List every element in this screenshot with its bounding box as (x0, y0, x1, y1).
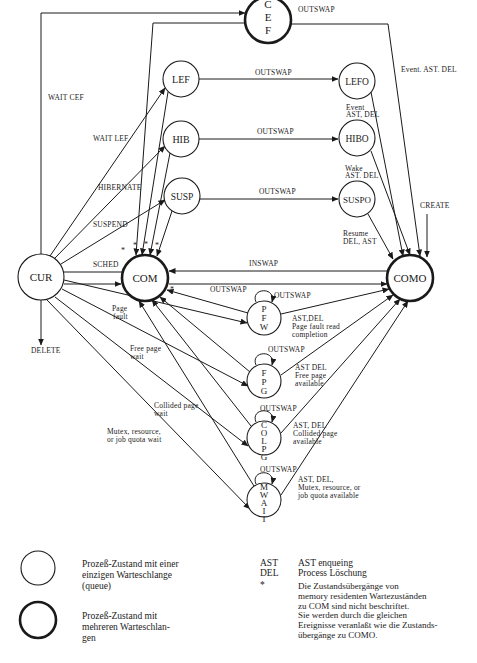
self-loop-pfw (255, 291, 272, 302)
mwait-label-5: T (261, 514, 267, 524)
label-suspo-2: DEL, AST (343, 237, 377, 246)
cef-label-3: F (265, 24, 271, 36)
abbr-del-value: Process Löschung (298, 568, 367, 578)
edge-cur-lef (50, 88, 165, 256)
colpg-label-5: G (261, 452, 268, 462)
label-colpg-3: available (293, 437, 322, 446)
label-mwait-3: job quota available (297, 491, 359, 500)
state-transition-diagram: C E F LEF HIB SUSP CUR COM LEFO HIBO SUS… (0, 0, 477, 663)
edge-cur-hib (55, 146, 165, 258)
star-marker: * (170, 285, 174, 294)
susp-label: SUSP (171, 192, 194, 202)
suspo-label: SUSPO (343, 195, 372, 205)
legend-single-line-3: (queue) (82, 581, 179, 592)
label-page-fault-2: fault (113, 312, 128, 321)
abbr-ast-value: AST enqueing (298, 558, 353, 568)
legend-multi-line-1: Prozeß-Zustand mit (82, 611, 170, 622)
legend-multi-line-2: mehreren Warteschlan- (82, 622, 170, 633)
label-outswap-susp: OUTSWAP (259, 187, 296, 196)
lef-label: LEF (172, 74, 190, 85)
abbr-ast-key: AST (260, 558, 298, 569)
cef-label-1: C (264, 0, 271, 10)
label-wait-lef: WAIT LEF (93, 134, 128, 143)
edge-cur-colpg (55, 297, 248, 446)
legend-single-line-1: Prozeß-Zustand mit einer (82, 559, 179, 570)
lefo-label: LEFO (345, 77, 369, 87)
label-event-ast-del: Event. AST. DEL (401, 65, 457, 74)
label-outswap-hib: OUTSWAP (257, 127, 294, 136)
star-marker: * (155, 241, 159, 250)
label-hibo-2: AST. DEL (345, 171, 379, 180)
legend-multi-queue-icon (20, 602, 56, 638)
abbr-del-key: DEL (260, 568, 298, 579)
label-outswap-cef: OUTSWAP (298, 5, 335, 14)
legend-single-line-2: einzigen Warteschlange (82, 570, 179, 581)
pfw-label-3: W (260, 322, 269, 332)
self-loop-fpg (255, 354, 272, 365)
edge-susp-com (157, 211, 172, 256)
cur-label: CUR (30, 271, 53, 283)
abbr-star-key: * (260, 580, 298, 591)
edge-fpg-com (160, 297, 250, 372)
label-create: CREATE (420, 201, 450, 210)
note-line: übergänge zu COMO. (298, 631, 477, 641)
legend-single-queue-icon (21, 551, 55, 585)
cef-label-2: E (265, 11, 272, 23)
fpg-label-3: G (261, 386, 268, 396)
hibo-label: HIBO (345, 134, 368, 144)
star-marker: * (133, 241, 137, 250)
label-outswap-mwait: OUTSWAP (260, 465, 297, 474)
label-lefo-2: AST, DEL (346, 110, 380, 119)
label-sched: SCHED (93, 260, 119, 269)
com-label: COM (132, 272, 157, 284)
como-label: COMO (393, 272, 426, 284)
label-outswap-fpg: OUTSWAP (268, 345, 305, 354)
label-outswap-pfw: OUTSWAP (274, 291, 311, 300)
label-free-page-2: wait (130, 352, 144, 361)
legend-multi-queue: Prozeß-Zustand mit mehreren Warteschlan-… (82, 611, 170, 644)
label-outswap-colpg: OUTSWAP (260, 404, 297, 413)
abbr-star-note: Die Zustandsübergänge von memory residen… (298, 582, 477, 641)
edge-cur-mwait (47, 300, 250, 509)
label-hibernate: HIBERNATE (98, 183, 142, 192)
label-collided-2: wait (154, 409, 168, 418)
hib-label: HIB (172, 134, 190, 145)
label-mutex-2: or job quota wait (107, 435, 162, 444)
abbr-star: * Die Zustandsübergänge von memory resid… (260, 580, 298, 591)
edge-mwait-com (139, 301, 254, 486)
label-outswap-com: OUTSWAP (210, 285, 247, 294)
label-fpg-3: available (295, 379, 324, 388)
legend-single-queue: Prozeß-Zustand mit einer einzigen Wartes… (82, 559, 179, 592)
edge-cur-cef (41, 13, 245, 254)
label-suspend: SUSPEND (93, 220, 128, 229)
star-marker: * (144, 240, 148, 249)
label-inswap: INSWAP (249, 259, 278, 268)
legend-multi-line-3: gen (82, 633, 170, 644)
label-wait-cef: WAIT CEF (48, 93, 84, 102)
label-outswap-lef: OUTSWAP (255, 68, 292, 77)
label-pfw-3: completion (292, 330, 328, 339)
abbr-del: DELProcess Löschung (260, 568, 367, 579)
abbr-ast: ASTAST enqueing (260, 558, 353, 569)
star-marker: * (121, 246, 125, 255)
label-delete: DELETE (31, 346, 61, 355)
edge-hibo-como (371, 151, 410, 255)
